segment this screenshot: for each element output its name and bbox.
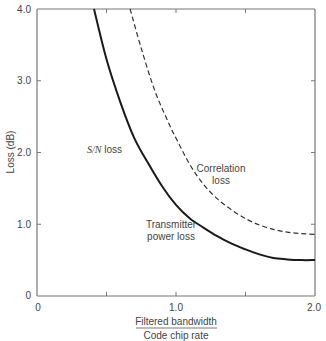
x-label-numerator: Filtered bandwidth [135,316,217,327]
y-tick-4: 4.0 [17,4,31,15]
x-label-denominator: Code chip rate [143,330,208,341]
x-tick-0: 0 [35,302,41,313]
correlation-label-line2: loss [212,175,230,186]
loss-chart: 0 1.0 2.0 3.0 4.0 0 1.0 2.0 Loss (dB) Fi… [0,0,326,341]
y-tick-labels: 0 1.0 2.0 3.0 4.0 [17,4,31,302]
x-tick-2: 2.0 [307,302,321,313]
transmitter-label-line2: power loss [147,231,195,242]
ticks [37,9,315,296]
y-tick-0: 0 [25,290,31,301]
sn-loss-label: S/N loss [87,144,122,155]
y-axis-label: Loss (dB) [5,131,16,174]
transmitter-power-loss-curve [94,9,315,260]
correlation-loss-curve [130,9,315,234]
x-tick-labels: 0 1.0 2.0 [35,302,321,313]
x-axis-label: Filtered bandwidth Code chip rate [135,316,217,341]
transmitter-label-line1: Transmitter [146,219,197,230]
x-tick-1: 1.0 [169,302,183,313]
y-tick-3: 3.0 [17,75,31,86]
y-tick-2: 2.0 [17,147,31,158]
y-tick-1: 1.0 [17,219,31,230]
correlation-label-line1: Correlation [197,163,246,174]
plot-frame [37,9,315,296]
